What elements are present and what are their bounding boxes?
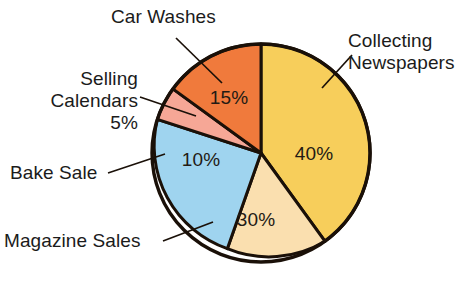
slice-value-magazine-sales: 30% <box>237 209 276 230</box>
label-car-washes: Car Washes <box>111 6 216 28</box>
label-magazine-sales: Magazine Sales <box>4 230 141 252</box>
slice-value-bake-sale: 10% <box>182 149 221 170</box>
pie-chart-figure: 40% 30% 10% 15% Car Washes Selling Calen… <box>0 0 472 287</box>
label-collecting-newspapers: Collecting Newspapers <box>348 30 455 74</box>
slice-value-collecting-newspapers: 40% <box>295 143 334 164</box>
label-bake-sale: Bake Sale <box>10 162 98 184</box>
label-selling-calendars: Selling Calendars 5% <box>0 68 138 134</box>
slice-value-car-washes: 15% <box>210 87 249 108</box>
